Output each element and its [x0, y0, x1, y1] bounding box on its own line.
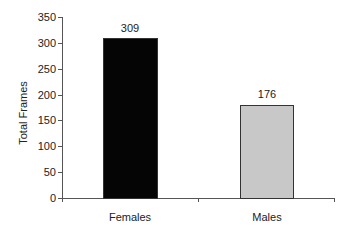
- y-tick-label: 50: [44, 166, 56, 178]
- x-tick: [334, 198, 335, 202]
- y-tick: [58, 146, 62, 147]
- bar-females: [103, 38, 158, 199]
- x-category-label: Males: [227, 211, 307, 223]
- x-tick: [62, 198, 63, 202]
- bar-males: [240, 105, 294, 199]
- y-tick-label: 300: [38, 37, 56, 49]
- y-tick: [58, 172, 62, 173]
- y-tick: [58, 17, 62, 18]
- y-tick-label: 0: [50, 192, 56, 204]
- bar-value-label: 176: [237, 88, 297, 100]
- y-tick-label: 100: [38, 140, 56, 152]
- y-tick-label: 150: [38, 114, 56, 126]
- x-category-label: Females: [90, 211, 170, 223]
- x-tick: [198, 198, 199, 202]
- y-tick-label: 250: [38, 63, 56, 75]
- y-tick: [58, 120, 62, 121]
- y-axis-label: Total Frames: [17, 73, 29, 153]
- bar-chart: Total Frames 0 50 100 150 200 250 300 35…: [0, 0, 352, 235]
- bar-value-label: 309: [100, 22, 160, 34]
- y-axis: [62, 17, 63, 199]
- y-tick: [58, 95, 62, 96]
- y-tick-label: 200: [38, 89, 56, 101]
- y-tick-label: 350: [38, 11, 56, 23]
- y-tick: [58, 43, 62, 44]
- y-tick: [58, 69, 62, 70]
